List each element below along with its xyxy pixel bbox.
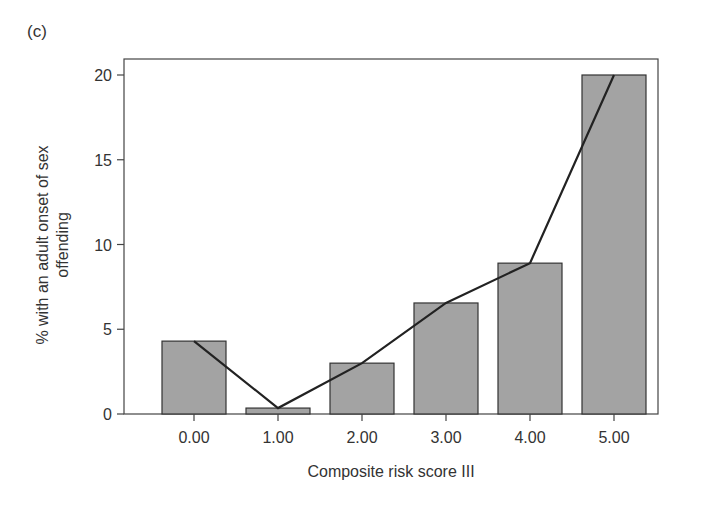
bar-2.00 [330, 363, 394, 414]
x-tick-label: 3.00 [430, 429, 461, 446]
x-tick-label: 1.00 [262, 429, 293, 446]
x-tick-label: 5.00 [598, 429, 629, 446]
bar-0.00 [162, 341, 226, 414]
x-axis: 0.001.002.003.004.005.00 [178, 414, 629, 446]
y-axis-title-line-1: % with an adult onset of sex [34, 145, 51, 344]
y-tick-label: 15 [94, 152, 112, 169]
bar-chart: 05101520 0.001.002.003.004.005.00 Compos… [0, 0, 709, 505]
bars [162, 75, 646, 414]
y-axis-title-line-2: offending [54, 212, 71, 278]
y-tick-label: 10 [94, 237, 112, 254]
y-axis-title: % with an adult onset of sex offending [34, 145, 71, 344]
y-tick-label: 5 [103, 321, 112, 338]
bar-4.00 [498, 263, 562, 414]
x-tick-label: 4.00 [514, 429, 545, 446]
x-tick-label: 0.00 [178, 429, 209, 446]
y-tick-label: 0 [103, 406, 112, 423]
y-tick-label: 20 [94, 67, 112, 84]
x-axis-title: Composite risk score III [307, 463, 474, 480]
x-tick-label: 2.00 [346, 429, 377, 446]
y-axis: 05101520 [94, 67, 124, 423]
